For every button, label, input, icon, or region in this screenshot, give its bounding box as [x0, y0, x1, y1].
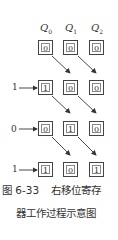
cell-q2: 0: [89, 80, 104, 95]
cell-q2: 0: [89, 40, 104, 55]
caption-text: 右移位寄存: [51, 184, 101, 196]
cell-q1: 0: [63, 162, 78, 177]
cell-q1: 0: [63, 40, 78, 55]
figure-number: 图 6-33: [2, 184, 39, 196]
figure-caption-line2: 器工作过程示意图: [16, 205, 118, 220]
cell-q2: 0: [89, 121, 104, 136]
cell-q1: 0: [63, 80, 78, 95]
cell-q1: 1: [63, 121, 78, 136]
cell-q0: 1: [38, 162, 53, 177]
cell-q0: 0: [38, 40, 53, 55]
cell-q2: 1: [89, 162, 104, 177]
cell-q0: 0: [38, 121, 53, 136]
serial-input: 1: [12, 164, 18, 174]
serial-input: 0: [11, 124, 17, 134]
cell-q0: 1: [38, 80, 53, 95]
figure-caption-line1: 图 6-33右移位寄存: [2, 182, 118, 197]
serial-input: 1: [12, 82, 18, 92]
